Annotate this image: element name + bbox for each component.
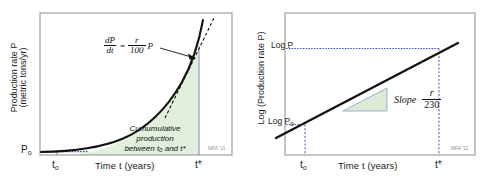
equation-lhs-fraction: dP dt — [103, 36, 117, 56]
cumulative-production-caption: Cumumulative production between t0 and t… — [107, 124, 203, 153]
y-axis-title-line2: (metric tons/yr) — [18, 48, 28, 108]
slope-fraction: r 230 — [422, 88, 441, 110]
linear-plot-graphic — [0, 0, 242, 181]
y-tick-label-logp0: Log Po — [268, 117, 294, 126]
log-plot-graphic — [243, 0, 485, 181]
x-tick-label-t0: to — [300, 160, 307, 170]
panel-log-plot: Log (Production rate P) Log P Log Po to … — [243, 0, 485, 181]
caption-line-3: between t0 and t* — [124, 144, 185, 153]
slope-annotation: Slope r 230 — [394, 88, 441, 110]
watermark-log: MFA '11 — [451, 146, 469, 151]
equation-rhs-fraction: r 100 — [128, 36, 146, 56]
caption-line-2: production — [136, 134, 173, 143]
y-tick-label-logp: Log P — [271, 41, 293, 50]
caption-line-1: Cumumulative — [129, 124, 180, 133]
y-axis-title-linear: Production rate P (metric tons/yr) — [10, 15, 28, 140]
figure-container: Production rate P (metric tons/yr) Po to… — [0, 0, 485, 181]
growth-rate-equation: dP dt = r 100 P — [103, 36, 153, 56]
equation-rhs-variable: P — [148, 41, 154, 51]
slope-label: Slope — [394, 94, 416, 105]
x-tick-label-tstar: t* — [435, 160, 442, 170]
x-tick-label-t0: to — [52, 160, 59, 170]
x-axis-title-linear: Time t (years) — [95, 161, 155, 171]
equation-equals-sign: = — [119, 41, 126, 51]
x-tick-label-tstar: t* — [195, 160, 202, 170]
panel-linear-plot: Production rate P (metric tons/yr) Po to… — [0, 0, 242, 181]
y-axis-title-log: Log (Production rate P) — [257, 8, 266, 148]
x-axis-title-log: Time t (years) — [338, 161, 398, 171]
y-tick-label-p0: Po — [21, 145, 32, 155]
watermark-linear: MFA '11 — [208, 146, 226, 151]
